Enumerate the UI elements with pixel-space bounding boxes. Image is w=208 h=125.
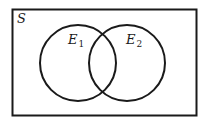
set-e2-label: E2 <box>125 32 142 49</box>
sample-space-label: S <box>17 11 26 26</box>
set-e1-circle <box>40 25 116 101</box>
venn-diagram: S E1 E2 <box>0 0 208 125</box>
set-e1-label: E1 <box>67 32 84 49</box>
